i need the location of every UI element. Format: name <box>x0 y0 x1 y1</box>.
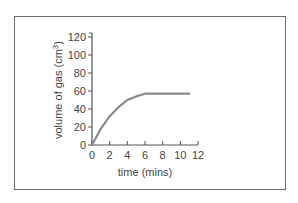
y-tick-label: 100 <box>68 49 86 61</box>
y-tick-label: 120 <box>68 31 86 43</box>
x-axis-title: time (mins) <box>118 166 172 178</box>
y-tick-label: 40 <box>74 103 86 115</box>
y-axis-title-main: volume of gas (cm <box>52 49 64 139</box>
x-tick-label: 4 <box>124 149 130 161</box>
x-tick-label: 0 <box>89 149 95 161</box>
y-axis-title: volume of gas (cm3) <box>51 41 64 139</box>
y-tick-label: 80 <box>74 67 86 79</box>
x-tick-label: 10 <box>174 149 186 161</box>
y-axis: 020406080100120 <box>68 31 92 151</box>
y-tick-label: 60 <box>74 85 86 97</box>
data-series <box>92 94 189 145</box>
x-axis: 024681012 <box>89 141 204 161</box>
line-chart: 020406080100120 024681012 time (mins) vo… <box>0 0 298 203</box>
x-tick-label: 6 <box>142 149 148 161</box>
y-tick-label: 0 <box>80 139 86 151</box>
x-tick-label: 8 <box>160 149 166 161</box>
x-tick-label: 2 <box>107 149 113 161</box>
x-tick-label: 12 <box>192 149 204 161</box>
y-tick-label: 20 <box>74 121 86 133</box>
data-line <box>92 94 189 145</box>
y-axis-title-end: ) <box>52 41 64 45</box>
